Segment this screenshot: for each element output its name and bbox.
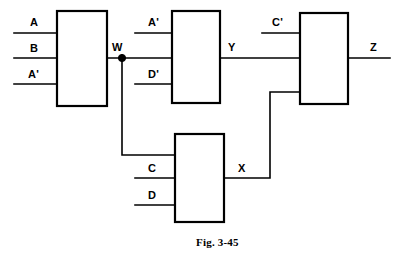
label-input-c: C [148,163,156,174]
gate-box-4 [175,134,224,222]
label-output-z: Z [370,42,377,53]
label-node-w: W [112,42,123,53]
label-input-b: B [30,43,38,54]
label-node-y: Y [228,42,236,53]
label-node-x: X [238,163,246,174]
gate-box-2 [172,11,220,103]
gate-box-1 [57,11,107,106]
label-input-d-prime: D' [148,69,159,80]
label-input-a2-prime: A' [148,17,159,28]
label-input-a: A [30,17,38,28]
gate-box-3 [300,13,348,104]
junction-dot-w [118,54,125,61]
label-input-d: D [148,190,156,201]
figure-caption: Fig. 3-45 [196,236,239,248]
label-input-c-prime: C' [272,17,283,28]
circuit-canvas [0,0,399,260]
logic-circuit-diagram: A B A' A' D' C' C D W Y X Z Fig. 3-45 [0,0,399,260]
wire-gate4-output-x-to-gate3 [224,92,300,178]
label-input-a-prime: A' [28,69,39,80]
